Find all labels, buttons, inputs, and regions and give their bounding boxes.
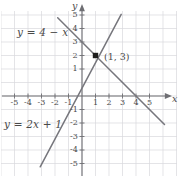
graph-figure: y = 4 − x y = 2x + 1 (1, 3) y x -5 -4 -3…: [0, 0, 183, 178]
label-line-y-equals-4-minus-x: y = 4 − x: [17, 27, 68, 38]
y-tick-label--1: -1: [68, 106, 80, 114]
y-tick-label--2: -2: [68, 119, 80, 127]
axis-label-x: x: [172, 94, 177, 104]
label-intersection-point: (1, 3): [104, 52, 130, 62]
label-line-y-equals-2x-plus-1: y = 2x + 1: [4, 119, 62, 130]
y-tick-label-5: 5: [71, 11, 79, 19]
x-tick-label-3: 3: [119, 99, 127, 107]
intersection-point-marker: [93, 53, 98, 58]
y-axis-arrow: [79, 4, 85, 11]
x-tick-label--4: -4: [21, 99, 35, 107]
x-tick-label--3: -3: [35, 99, 49, 107]
x-tick-label--5: -5: [8, 99, 22, 107]
y-tick-label-1: 1: [71, 65, 79, 73]
y-tick-label-4: 4: [71, 25, 79, 33]
y-tick-label-3: 3: [71, 38, 79, 46]
x-tick-label-2: 2: [105, 99, 113, 107]
x-tick-label--2: -2: [48, 99, 62, 107]
y-tick-label--4: -4: [68, 146, 80, 154]
x-axis-arrow: [165, 93, 172, 99]
y-tick-label--5: -5: [68, 160, 80, 168]
x-tick-label-5: 5: [146, 99, 154, 107]
y-tick-label--3: -3: [68, 133, 80, 141]
x-tick-label-1: 1: [92, 99, 100, 107]
y-tick-label-2: 2: [71, 52, 79, 60]
x-tick-label-4: 4: [132, 99, 140, 107]
